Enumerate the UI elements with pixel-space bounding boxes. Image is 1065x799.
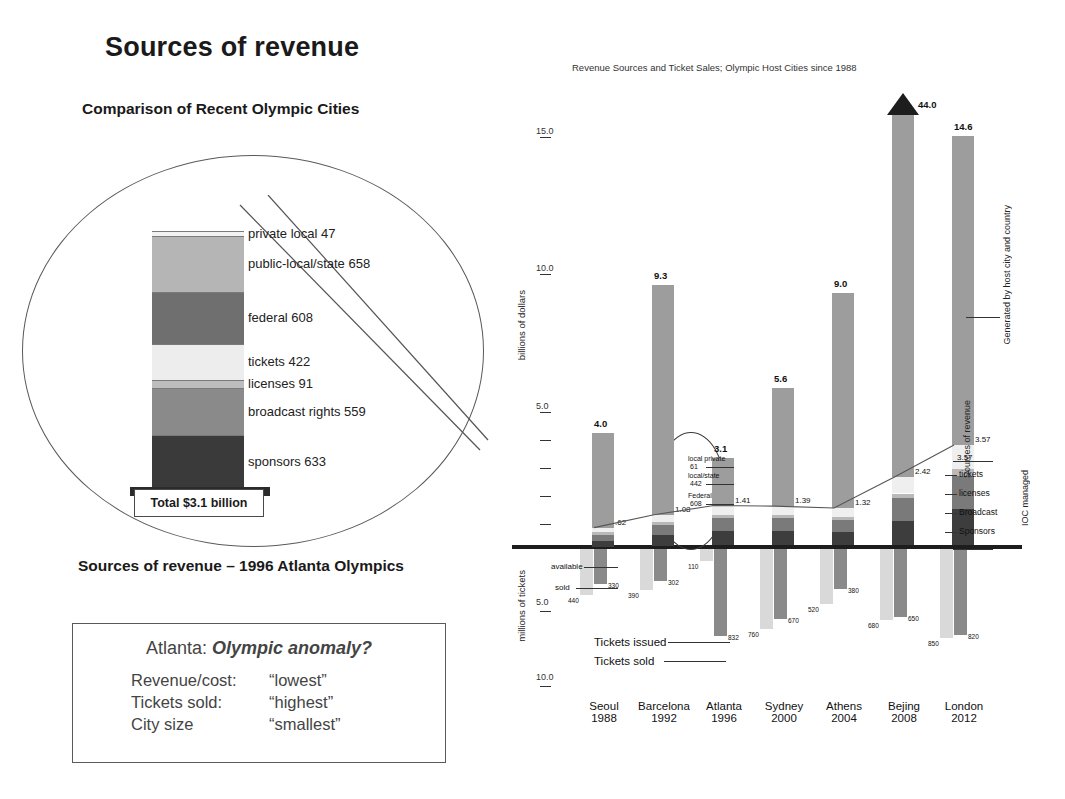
callout-segment [152, 236, 244, 292]
legend-item: Broadcast [959, 507, 997, 517]
total-label: Total $3.1 billion [134, 489, 264, 517]
y-axis-label-bottom: millions of tickets [516, 570, 527, 642]
city-name: Atlanta [706, 700, 742, 712]
anomaly-row-key: Tickets sold: [131, 693, 269, 712]
y-tick-mark [540, 611, 551, 612]
ioc-value-label: 1.41 [735, 496, 751, 505]
atlanta-annotation-value: 442 [690, 480, 702, 487]
atlanta-annotation-label: Federal [688, 492, 712, 499]
legend-pointer [945, 513, 957, 514]
y-tick-mark-minor [540, 468, 551, 469]
revenue-bar-host [832, 293, 854, 508]
y-tick-label: 10.0 [536, 263, 554, 273]
tickets-issued-bar [760, 549, 773, 629]
legend-rule-bottom [953, 549, 993, 550]
revenue-bar-host [772, 388, 794, 506]
callout-segment [152, 388, 244, 435]
anomaly-title-italic: Olympic anomaly? [212, 638, 372, 658]
anomaly-row-key: City size [131, 715, 269, 734]
tickets-issued-bar [700, 549, 713, 561]
tickets-sold-bar [894, 549, 907, 617]
revenue-total-label: 44.0 [918, 99, 937, 110]
tickets-sold-label: 650 [908, 615, 919, 622]
y-axis-label-top: billions of dollars [516, 290, 527, 360]
callout-segment-label: broadcast rights 559 [248, 404, 366, 419]
city-name: Athens [826, 700, 862, 712]
ioc-value-label: 1.08 [675, 505, 691, 514]
callout-segment-label: licenses 91 [248, 376, 313, 391]
tickets-issued-label: 680 [868, 622, 879, 629]
anomaly-row: Tickets sold:“highest” [131, 693, 445, 712]
atlanta-annotation-rule [706, 504, 734, 505]
offscale-arrow-icon [887, 93, 919, 115]
callout-segment [152, 435, 244, 489]
revenue-segment [772, 531, 794, 545]
tickets-issued-label: 440 [568, 597, 579, 604]
ticket-annotation-rule [576, 588, 618, 589]
atlanta-annotation-label: local private [688, 455, 725, 462]
legend-rule-sold [664, 661, 726, 662]
atlanta-annotation-value: 61 [690, 463, 698, 470]
callout-segment-label: private local 47 [248, 226, 335, 241]
anomaly-title: Atlanta: Olympic anomaly? [73, 638, 445, 659]
anomaly-box: Atlanta: Olympic anomaly? Revenue/cost:“… [72, 623, 446, 763]
page-title: Sources of revenue [105, 32, 359, 63]
revenue-segment [592, 541, 614, 547]
legend-item: Sponsors [959, 526, 995, 536]
anomaly-row-key: Revenue/cost: [131, 671, 269, 690]
y-tick-label: 5.0 [536, 401, 549, 411]
legend-rule-issued [668, 642, 730, 643]
tickets-sold-bar [834, 549, 847, 589]
comparison-subtitle: Comparison of Recent Olympic Cities [82, 100, 359, 118]
revenue-bar-host [952, 136, 974, 445]
anomaly-row-value: “highest” [269, 693, 333, 712]
y-tick-mark-minor [540, 496, 551, 497]
city-name: Sydney [765, 700, 803, 712]
y-tick-label-bottom: 5.0 [536, 597, 549, 607]
revenue-segment [772, 518, 794, 531]
revenue-segment [652, 535, 674, 546]
legend-group-sources: Sources of revenue [962, 400, 972, 478]
revenue-segment [712, 506, 734, 515]
callout-segment-label: tickets 422 [248, 354, 310, 369]
revenue-segment [772, 506, 794, 515]
tickets-sold-bar [654, 549, 667, 581]
revenue-segment [712, 518, 734, 531]
atlanta-annotation-label: local/state [688, 472, 720, 479]
callout-segment [152, 380, 244, 388]
y-tick-mark-minor [540, 440, 551, 441]
tickets-sold-bar [954, 549, 967, 635]
ioc-value-label: 1.32 [855, 498, 871, 507]
revenue-bar-host [892, 115, 914, 477]
ioc-value-label: .62 [615, 518, 626, 527]
callout-segment-label: sponsors 633 [248, 454, 326, 469]
atlanta-annotation-rule [706, 484, 734, 485]
revenue-segment [832, 508, 854, 517]
legend-group-host: Generated by host city and country [1002, 205, 1012, 345]
legend-pointer [945, 532, 957, 533]
anomaly-row-value: “lowest” [269, 671, 327, 690]
callout-segment [152, 292, 244, 344]
revenue-total-label: 9.3 [654, 270, 667, 281]
tickets-issued-bar [880, 549, 893, 620]
ioc-value-label: 2.42 [915, 467, 931, 476]
atlanta-annotation-rule [706, 467, 734, 468]
ticket-legend-issued: Tickets issued [594, 633, 730, 652]
city-year: 2012 [929, 712, 999, 724]
tickets-sold-label: 302 [668, 579, 679, 586]
tickets-issued-label: 390 [628, 592, 639, 599]
revenue-bar-host [712, 458, 734, 505]
ioc-value-label: 3.57 [975, 435, 991, 444]
tickets-issued-label: 110 [688, 563, 698, 570]
legend-pointer [945, 475, 957, 476]
tickets-issued-label: 760 [748, 631, 759, 638]
chart-title: Revenue Sources and Ticket Sales; Olympi… [572, 62, 857, 73]
legend-item: licenses [959, 488, 990, 498]
ticket-annotation-sold: sold [555, 583, 570, 592]
callout-segment-label: federal 608 [248, 310, 313, 325]
y-tick-mark [540, 137, 551, 138]
y-tick-label: 15.0 [536, 126, 554, 136]
revenue-segment [652, 525, 674, 535]
callout-segment-label: public-local/state 658 [248, 256, 370, 271]
ticket-legend: Tickets issued Tickets sold [594, 633, 730, 671]
